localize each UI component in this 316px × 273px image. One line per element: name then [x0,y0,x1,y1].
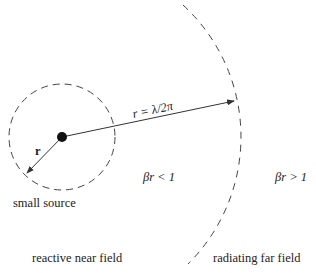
small-radius-arrow [27,137,62,173]
near-field-label: reactive near field [32,252,122,265]
diagram-canvas [0,0,316,273]
small-source-label: small source [13,197,76,210]
far-field-boundary-arc [183,5,241,264]
far-field-label: radiating far field [213,252,300,265]
field-regions-diagram: r r = λ/2π βr < 1 βr > 1 small source re… [0,0,316,273]
outer-condition-label: βr > 1 [275,171,307,184]
inner-condition-label: βr < 1 [143,171,175,184]
small-radius-label: r [35,145,41,158]
source-dot [57,132,67,142]
